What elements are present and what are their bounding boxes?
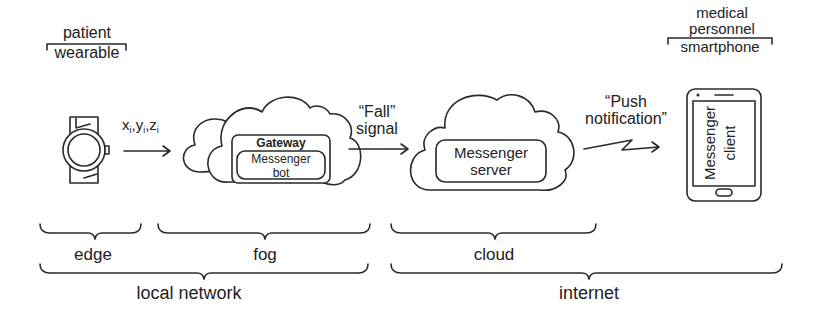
svg-text:xi,yi,zi: xi,yi,zi: [122, 116, 159, 135]
smartphone-top-label-1: medical: [696, 4, 748, 21]
push-notification-line1: “Push: [605, 93, 647, 110]
smartphone-top-label-2: personnel: [689, 20, 755, 37]
brace-internet: internet: [391, 264, 782, 303]
wearable-bottom-label: wearable: [54, 44, 120, 61]
sensor-data-arrow: xi,yi,zi: [122, 116, 170, 156]
messenger-client-line2: client: [721, 125, 738, 161]
fall-detection-architecture-diagram: patient wearable xi,yi,zi Gateway Messen…: [0, 0, 816, 315]
cloud-server: Messenger server: [411, 95, 574, 190]
smartphone-icon: Messenger client: [687, 89, 761, 201]
messenger-bot-line2: bot: [273, 166, 290, 180]
gateway-label: Gateway: [256, 136, 306, 150]
brace-local-network: local network: [40, 264, 368, 303]
wearable-header: patient wearable: [47, 24, 126, 61]
fog-cloud: Gateway Messenger bot: [184, 97, 361, 185]
local-network-label: local network: [136, 283, 242, 303]
internet-label: internet: [559, 283, 619, 303]
brace-edge: edge: [40, 224, 141, 264]
wearable-top-label: patient: [63, 24, 112, 41]
smartphone-bottom-label: smartphone: [680, 38, 759, 55]
smartphone-header: medical personnel smartphone: [668, 4, 772, 55]
messenger-server-line2: server: [470, 161, 512, 178]
brace-fog: fog: [158, 224, 370, 264]
fog-label: fog: [253, 245, 277, 264]
fall-signal-line2: signal: [356, 120, 398, 137]
push-notification-line2: notification”: [585, 110, 667, 127]
messenger-client-line1: Messenger: [701, 106, 718, 180]
messenger-bot-line1: Messenger: [251, 152, 310, 166]
push-notification-arrow: “Push notification”: [584, 93, 667, 152]
messenger-server-line1: Messenger: [454, 144, 528, 161]
fall-signal-line1: “Fall”: [359, 103, 395, 120]
cloud-label: cloud: [474, 245, 515, 264]
brace-cloud: cloud: [391, 224, 596, 264]
smartwatch-icon: [63, 117, 109, 183]
edge-label: edge: [74, 245, 112, 264]
